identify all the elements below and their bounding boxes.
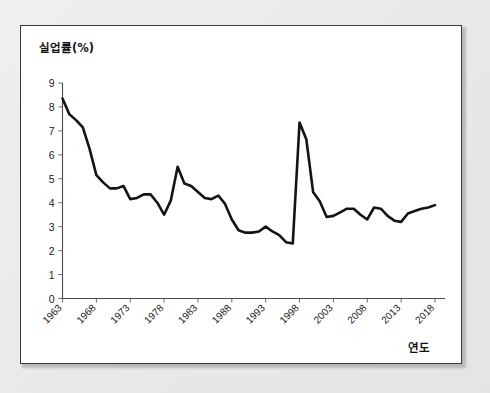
x-tick-label: 1973 [108,302,132,326]
x-tick-label: 2013 [379,302,403,326]
y-axis-title: 실업률(%) [39,41,94,55]
y-tick-label: 3 [49,221,55,233]
x-tick-label: 1963 [40,302,64,326]
y-tick-label: 5 [49,173,55,185]
x-tick-label: 1998 [277,302,301,326]
x-tick-label: 1988 [210,302,234,326]
x-tick-label: 2003 [311,302,335,326]
x-tick-label: 1983 [176,302,200,326]
y-tick-label: 9 [49,77,55,89]
x-tick-label: 1978 [142,302,166,326]
y-tick-label: 7 [49,125,55,137]
y-tick-label: 0 [49,293,55,305]
x-axis: 1963196819731978198319881993199820032008… [40,299,436,326]
x-tick-label: 2018 [413,302,437,326]
unemployment-rate-line-chart: 실업률(%) 연도 9876543210 1963196819731978198… [21,26,463,365]
y-tick-label: 6 [49,149,55,161]
plot-area: 실업률(%) 연도 9876543210 1963196819731978198… [21,26,461,363]
screenshot-root: 실업률(%) 연도 9876543210 1963196819731978198… [0,0,490,393]
y-tick-label: 8 [49,101,55,113]
x-tick-label: 1968 [74,302,98,326]
y-tick-label: 4 [49,197,55,209]
y-axis: 9876543210 [49,77,63,305]
chart-panel: 실업률(%) 연도 9876543210 1963196819731978198… [20,25,462,364]
y-tick-label: 2 [49,245,55,257]
y-tick-label: 1 [49,269,55,281]
unemployment-series-line [63,99,436,244]
x-tick-label: 2008 [345,302,369,326]
x-tick-label: 1993 [244,302,268,326]
x-axis-title: 연도 [408,341,430,355]
